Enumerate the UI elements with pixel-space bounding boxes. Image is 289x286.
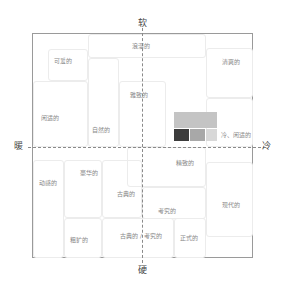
region-natural-label: 自然的 bbox=[92, 127, 110, 133]
region-modern-box bbox=[206, 162, 253, 237]
region-cute-label: 可爱的 bbox=[54, 58, 72, 64]
swatch-dark bbox=[174, 129, 189, 141]
region-classic-box bbox=[102, 160, 142, 218]
region-casual-label: 闲适的 bbox=[41, 115, 59, 121]
swatch-top-bar bbox=[174, 112, 217, 128]
region-fresh-label: 清爽的 bbox=[222, 59, 240, 65]
region-dandy-label: 考究的 bbox=[158, 208, 176, 214]
region-formal-label: 正式的 bbox=[180, 235, 198, 241]
swatch-mid bbox=[190, 129, 205, 141]
region-cool-casual-label: 冷、闲适的 bbox=[221, 132, 251, 138]
region-gorgeous-label: 豪华的 bbox=[80, 170, 98, 176]
axis-label-warm: 暖 bbox=[14, 142, 23, 151]
region-wild-label: 粗犷的 bbox=[70, 237, 88, 243]
region-fresh-box bbox=[206, 48, 253, 98]
swatch-light bbox=[206, 129, 217, 141]
axis-label-soft: 软 bbox=[138, 19, 147, 28]
region-cute-box bbox=[48, 49, 88, 81]
horizontal-axis-line bbox=[28, 147, 266, 148]
axis-label-cool: 冷 bbox=[262, 142, 271, 151]
region-natural-box bbox=[88, 58, 119, 147]
region-classic-label: 古典的 bbox=[117, 191, 135, 197]
region-chic-label: 精致的 bbox=[176, 160, 194, 166]
region-modern-label: 现代的 bbox=[222, 202, 240, 208]
region-dandy-box bbox=[142, 187, 206, 219]
region-dynamic-box bbox=[33, 160, 64, 258]
region-classic-dandy-label: 古典的 / 考究的 bbox=[120, 233, 162, 239]
region-elegant-label: 雅致的 bbox=[130, 92, 148, 98]
vertical-axis-line bbox=[142, 28, 143, 263]
region-dynamic-label: 动感的 bbox=[39, 180, 57, 186]
region-romantic-label: 浪漫的 bbox=[132, 43, 150, 49]
axis-label-hard: 硬 bbox=[138, 266, 147, 275]
